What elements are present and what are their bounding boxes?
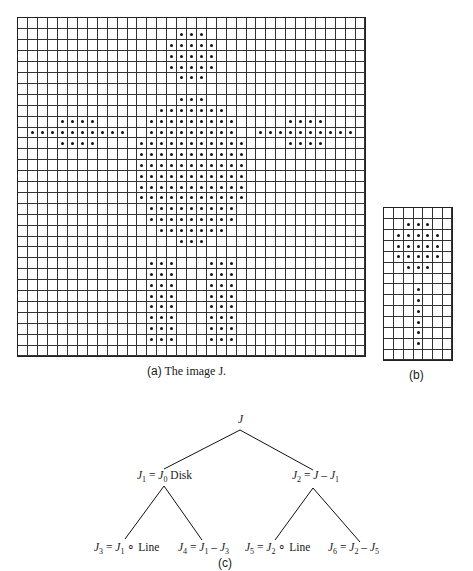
caption-c-label: (c) — [218, 556, 232, 570]
j3-eq: = — [103, 541, 115, 553]
tree-edge — [164, 486, 202, 540]
tree-node-j6: J6 = J2 – J5 — [328, 542, 379, 554]
j3-tail: ∘ Line — [124, 541, 159, 553]
j2-tail: – — [318, 469, 330, 481]
j1-eq: = — [146, 469, 158, 481]
j4-tail: – — [208, 541, 220, 553]
caption-c: (c) — [218, 556, 232, 571]
j1-tail: Disk — [167, 469, 192, 481]
j5-tail: ∘ Line — [275, 541, 310, 553]
j2-eq: = — [301, 469, 313, 481]
j6-tail: – — [358, 541, 370, 553]
tree-node-j3: J3 = J1 ∘ Line — [94, 542, 159, 554]
j6-tail-sub: 5 — [375, 547, 379, 556]
tree-edge — [125, 486, 164, 539]
tree-edge — [313, 488, 360, 542]
j4-eq: = — [187, 541, 199, 553]
j2-tail-sub: 1 — [335, 475, 339, 484]
tree-edge — [240, 430, 313, 470]
root-var: J — [238, 413, 243, 425]
j5-eq: = — [254, 541, 266, 553]
j4-tail-sub: 3 — [225, 547, 229, 556]
tree-node-j2: J2 = J – J1 — [292, 470, 339, 482]
tree-root-label: J — [238, 414, 243, 426]
decomposition-tree-edges — [0, 0, 473, 571]
j6-eq: = — [337, 541, 349, 553]
tree-node-j5: J5 = J2 ∘ Line — [245, 542, 310, 554]
tree-edge — [164, 430, 240, 469]
tree-node-j4: J4 = J1 – J3 — [178, 542, 229, 554]
tree-node-j1: J1 = J0 Disk — [137, 470, 192, 482]
tree-edge — [275, 488, 313, 540]
